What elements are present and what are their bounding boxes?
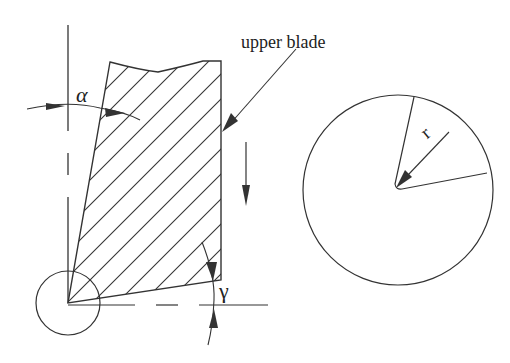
blade-diagram (0, 0, 510, 363)
gamma-arrow-top-icon (206, 262, 217, 281)
down-arrow-icon (242, 185, 250, 206)
upper-blade-leader-arrow-icon (222, 113, 238, 132)
gamma-angle-label: γ (219, 280, 229, 302)
alpha-angle-label: α (76, 84, 88, 106)
cutter-circle (303, 95, 493, 285)
gamma-arrow-bottom-icon (209, 309, 218, 328)
upper-blade-leader-line (230, 49, 296, 124)
upper-blade-label: upper blade (241, 33, 325, 51)
alpha-arrow-right-icon (105, 108, 125, 117)
